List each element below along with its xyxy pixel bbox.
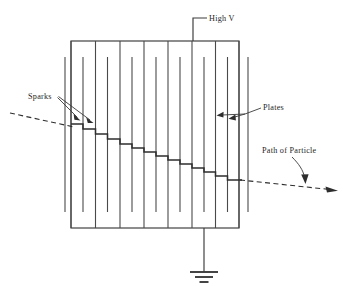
plates-label: Plates bbox=[263, 103, 284, 112]
particle-exit-trajectory bbox=[240, 180, 338, 193]
particle-exit-dashed-line bbox=[240, 180, 330, 190]
particle-entry-trajectory bbox=[10, 113, 74, 127]
sparks-leader-line-1 bbox=[58, 98, 78, 118]
plates-arrowhead-icon-1 bbox=[229, 115, 236, 121]
path-of-particle-arrowhead-icon bbox=[301, 174, 308, 184]
particle-entry-dashed-line bbox=[10, 113, 74, 127]
particle-exit-arrowhead-icon bbox=[326, 186, 339, 192]
high-voltage-lead-line bbox=[193, 18, 207, 41]
high-voltage-lead bbox=[193, 18, 207, 41]
path-of-particle-curve bbox=[292, 157, 305, 177]
path-of-particle-leader bbox=[292, 157, 309, 184]
high-voltage-label: High V bbox=[209, 14, 235, 23]
plates-leader-trunk bbox=[245, 108, 261, 114]
sparks-label: Sparks bbox=[28, 92, 52, 101]
diagram-canvas: High V bbox=[0, 0, 343, 298]
sparks-leaders bbox=[58, 97, 94, 124]
path-of-particle-label: Path of Particle bbox=[262, 146, 317, 155]
plates-arrowhead-icon-2 bbox=[217, 112, 224, 118]
spark-chamber-diagram: High V bbox=[0, 0, 343, 298]
ground-connection bbox=[190, 228, 218, 282]
